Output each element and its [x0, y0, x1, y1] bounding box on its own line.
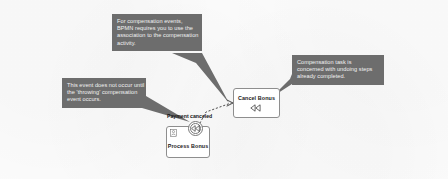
- compensation-marker-icon: [250, 104, 261, 112]
- user-task-icon: [170, 129, 177, 137]
- annotation-line: association to the compensation: [117, 32, 197, 39]
- bpmn-diagram-canvas: For compensation events, BPMN requires y…: [0, 0, 448, 179]
- annotation-line: For compensation events,: [117, 18, 197, 25]
- task-label: Cancel Bonus: [234, 95, 279, 101]
- annotation-line: concerned with undoing steps: [297, 66, 379, 73]
- annotation-line: event occurs.: [67, 96, 141, 103]
- annotation-compensation-association: For compensation events, BPMN requires y…: [112, 14, 202, 51]
- annotation-line: Compensation task is: [297, 59, 379, 66]
- annotation-line: already completed.: [297, 73, 379, 80]
- compensation-marker-icon: [191, 125, 200, 132]
- annotation-line: the 'throwing' compensation: [67, 89, 141, 96]
- annotation-compensation-task: Compensation task is concerned with undo…: [292, 55, 384, 85]
- compensation-association-line: [200, 100, 233, 123]
- boundary-event-label: Payment canceled: [167, 113, 212, 119]
- annotation-line: This event does not occur until: [67, 82, 141, 89]
- task-label: Process Bonus: [167, 143, 209, 149]
- task-cancel-bonus[interactable]: Cancel Bonus: [233, 88, 280, 118]
- annotation-line: BPMN requires you to use the: [117, 25, 197, 32]
- annotation-line: activity.: [117, 40, 197, 47]
- annotation-throwing-event: This event does not occur until the 'thr…: [62, 78, 146, 108]
